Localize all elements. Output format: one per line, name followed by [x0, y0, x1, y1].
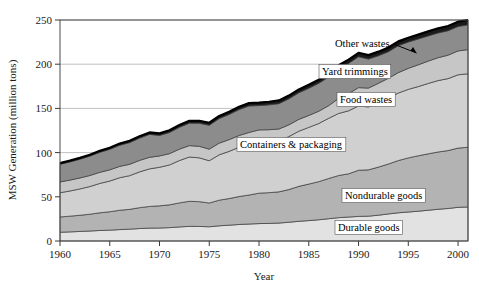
x-tick-label: 1980 — [248, 248, 271, 260]
containers-packaging-label: Containers & packaging — [237, 138, 346, 152]
annotation-text: Other wastes — [335, 38, 390, 49]
durable-goods-label: Durable goods — [335, 221, 403, 235]
y-tick-label: 100 — [36, 147, 53, 159]
annotation-text: Nondurable goods — [345, 190, 422, 201]
x-tick-label: 1995 — [397, 248, 420, 260]
x-tick-label: 1990 — [348, 248, 371, 260]
chart-figure: 050100150200250 196019651970197519801985… — [0, 0, 479, 291]
x-tick-label: 1985 — [298, 248, 321, 260]
x-tick-label: 2000 — [447, 248, 470, 260]
x-axis-title: Year — [254, 270, 275, 282]
annotation-text: Durable goods — [338, 222, 400, 233]
y-tick-label: 250 — [36, 14, 53, 26]
x-tick-label: 1975 — [198, 248, 221, 260]
x-axis-ticks: 196019651970197519801985199019952000 — [49, 241, 470, 260]
y-tick-label: 50 — [41, 191, 53, 203]
stacked-area-chart: 050100150200250 196019651970197519801985… — [0, 0, 479, 291]
nondurable-goods-label: Nondurable goods — [342, 189, 425, 203]
y-axis-title: MSW Generation (million tons) — [6, 59, 19, 200]
x-tick-label: 1970 — [149, 248, 172, 260]
x-tick-label: 1965 — [99, 248, 122, 260]
food-wastes-label: Food wastes — [337, 93, 395, 107]
y-tick-label: 150 — [36, 102, 53, 114]
annotation-text: Containers & packaging — [240, 139, 343, 150]
annotation-text: Yard trimmings — [322, 66, 388, 77]
yard-trimmings-label: Yard trimmings — [319, 65, 391, 79]
x-tick-label: 1960 — [49, 248, 72, 260]
y-tick-label: 200 — [36, 58, 53, 70]
y-axis-ticks: 050100150200250 — [36, 14, 61, 247]
annotation-text: Food wastes — [340, 94, 392, 105]
y-tick-label: 0 — [47, 235, 53, 247]
